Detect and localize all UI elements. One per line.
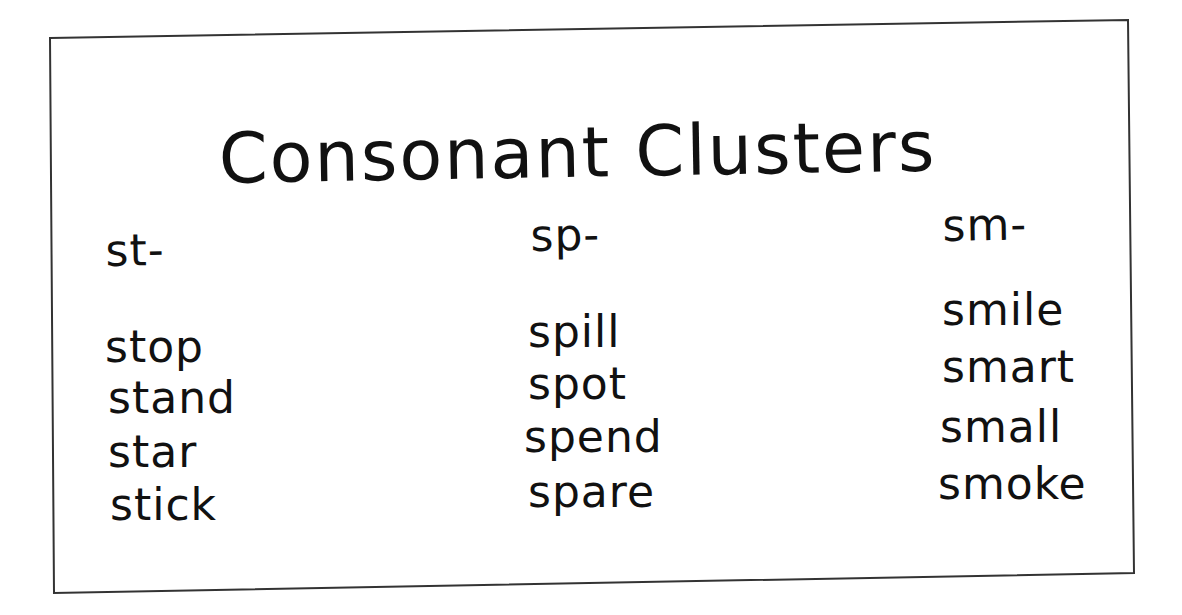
word-smoke: smoke [938,462,1087,506]
word-spill: spill [528,310,621,354]
column-header-sm: sm- [942,199,1028,251]
word-smart: smart [942,345,1075,389]
column-header-sp: sp- [530,209,601,261]
page-title: Consonant Clusters [218,105,937,200]
column-header-st: st- [105,224,165,276]
word-spend: spend [524,415,663,459]
word-spot: spot [528,362,627,406]
word-small: small [940,405,1062,449]
word-spare: spare [528,470,655,514]
word-star: star [108,430,197,474]
word-smile: smile [942,288,1064,332]
word-stand: stand [108,376,236,420]
word-stick: stick [110,483,217,527]
word-stop: stop [105,325,204,369]
